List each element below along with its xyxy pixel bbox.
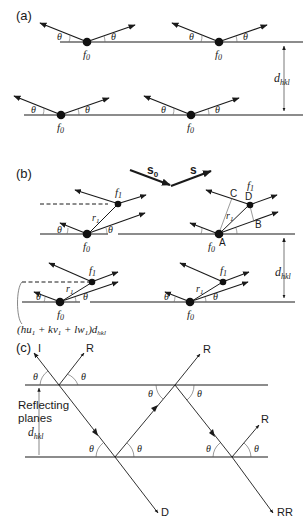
svg-text:θ: θ (36, 291, 41, 302)
diffraction-diagram: (a) dhkl θ θ f0 θ θ f0 (0, 0, 308, 526)
atom-f1 (220, 279, 227, 286)
panel-a-label: (a) (16, 8, 32, 23)
svg-text:f1: f1 (89, 264, 96, 278)
svg-text:θ: θ (243, 31, 248, 42)
atom-pair-geometry: C D B A f1 f0 r1 (190, 179, 278, 254)
panel-b: (b) s0 s dhkl θ θ f0 f1 (16, 163, 295, 337)
svg-text:θ: θ (206, 443, 211, 454)
planes-label-line1: Reflecting (18, 399, 69, 411)
svg-text:θ: θ (213, 291, 218, 302)
atom-f1 (89, 279, 96, 286)
svg-text:B: B (255, 219, 262, 230)
svg-text:θ: θ (148, 388, 153, 399)
svg-text:θ: θ (161, 104, 166, 115)
svg-text:θ: θ (137, 443, 142, 454)
svg-text:D: D (161, 506, 169, 518)
path-difference-formula: (hu1 + kv1 + lw1)dhkl (17, 323, 106, 337)
atom-pair: θ θ f0 f1 r1 (164, 263, 249, 322)
svg-text:f0: f0 (215, 48, 222, 62)
svg-text:θ: θ (197, 388, 202, 399)
svg-text:θ: θ (108, 224, 113, 235)
atom-dot (83, 38, 92, 47)
svg-text:θ: θ (111, 31, 116, 42)
svg-text:f0: f0 (57, 308, 64, 322)
svg-text:θ: θ (85, 104, 90, 115)
svg-text:f1: f1 (115, 186, 122, 200)
svg-text:θ: θ (254, 443, 259, 454)
atom-f0 (83, 230, 92, 239)
svg-text:θ: θ (57, 31, 62, 42)
planes-label-line2: planes (18, 412, 52, 424)
svg-text:θ: θ (89, 443, 94, 454)
svg-text:f0: f0 (83, 240, 90, 254)
spacing-label: dhkl (274, 71, 291, 87)
svg-text:θ: θ (164, 291, 169, 302)
svg-text:R: R (86, 342, 94, 354)
spacing-label: dhkl (28, 426, 44, 441)
svg-text:f0: f0 (83, 48, 90, 62)
svg-text:f0: f0 (57, 121, 64, 135)
s0-label: s0 (147, 163, 159, 179)
svg-text:r1: r1 (66, 283, 73, 296)
svg-text:θ: θ (83, 291, 88, 302)
path-db (250, 206, 254, 222)
svg-text:RR: RR (277, 506, 293, 518)
diffracted-ray (115, 457, 158, 513)
s-label: s (190, 163, 197, 177)
spacing-label: dhkl (275, 265, 292, 281)
svg-text:f1: f1 (247, 179, 254, 193)
svg-text:A: A (219, 237, 226, 248)
atom-pair: θ θ f0 f1 r1 (40, 186, 146, 254)
svg-text:I: I (38, 342, 41, 354)
atom-dot (187, 111, 196, 120)
svg-text:R: R (203, 343, 211, 355)
atom-dot (57, 111, 66, 120)
svg-text:f0: f0 (208, 240, 215, 254)
panel-b-label: (b) (16, 166, 32, 181)
panel-c: (c) Reflecting planes dhkl I D R R R R (16, 340, 293, 518)
atom-pair: θ θ f0 f1 r1 (18, 263, 119, 324)
svg-text:f0: f0 (187, 121, 194, 135)
atom-dot (215, 38, 224, 47)
svg-text:θ: θ (57, 224, 62, 235)
atom-f1 (247, 202, 254, 209)
svg-text:f0: f0 (187, 308, 194, 322)
transmitted-ray (175, 385, 232, 457)
svg-text:θ: θ (81, 371, 86, 382)
svg-text:r1: r1 (196, 283, 203, 296)
atom-f0 (56, 298, 65, 307)
panel-c-label: (c) (16, 340, 31, 355)
path-difference-bracket (18, 282, 23, 324)
reflected-ray (175, 354, 200, 385)
svg-text:θ: θ (31, 104, 36, 115)
svg-text:R: R (261, 413, 269, 425)
double-reflected-ray (232, 457, 273, 513)
svg-text:r1: r1 (226, 210, 233, 223)
svg-text:f1: f1 (220, 264, 227, 278)
svg-text:θ: θ (33, 371, 38, 382)
atom-f1 (115, 201, 122, 208)
svg-text:C: C (230, 188, 237, 199)
panel-a: (a) dhkl θ θ f0 θ θ f0 (14, 8, 303, 135)
reflected-ray (115, 385, 175, 457)
atom-f0 (186, 298, 195, 307)
svg-text:θ: θ (189, 31, 194, 42)
svg-text:r1: r1 (92, 212, 99, 225)
svg-text:θ: θ (215, 104, 220, 115)
